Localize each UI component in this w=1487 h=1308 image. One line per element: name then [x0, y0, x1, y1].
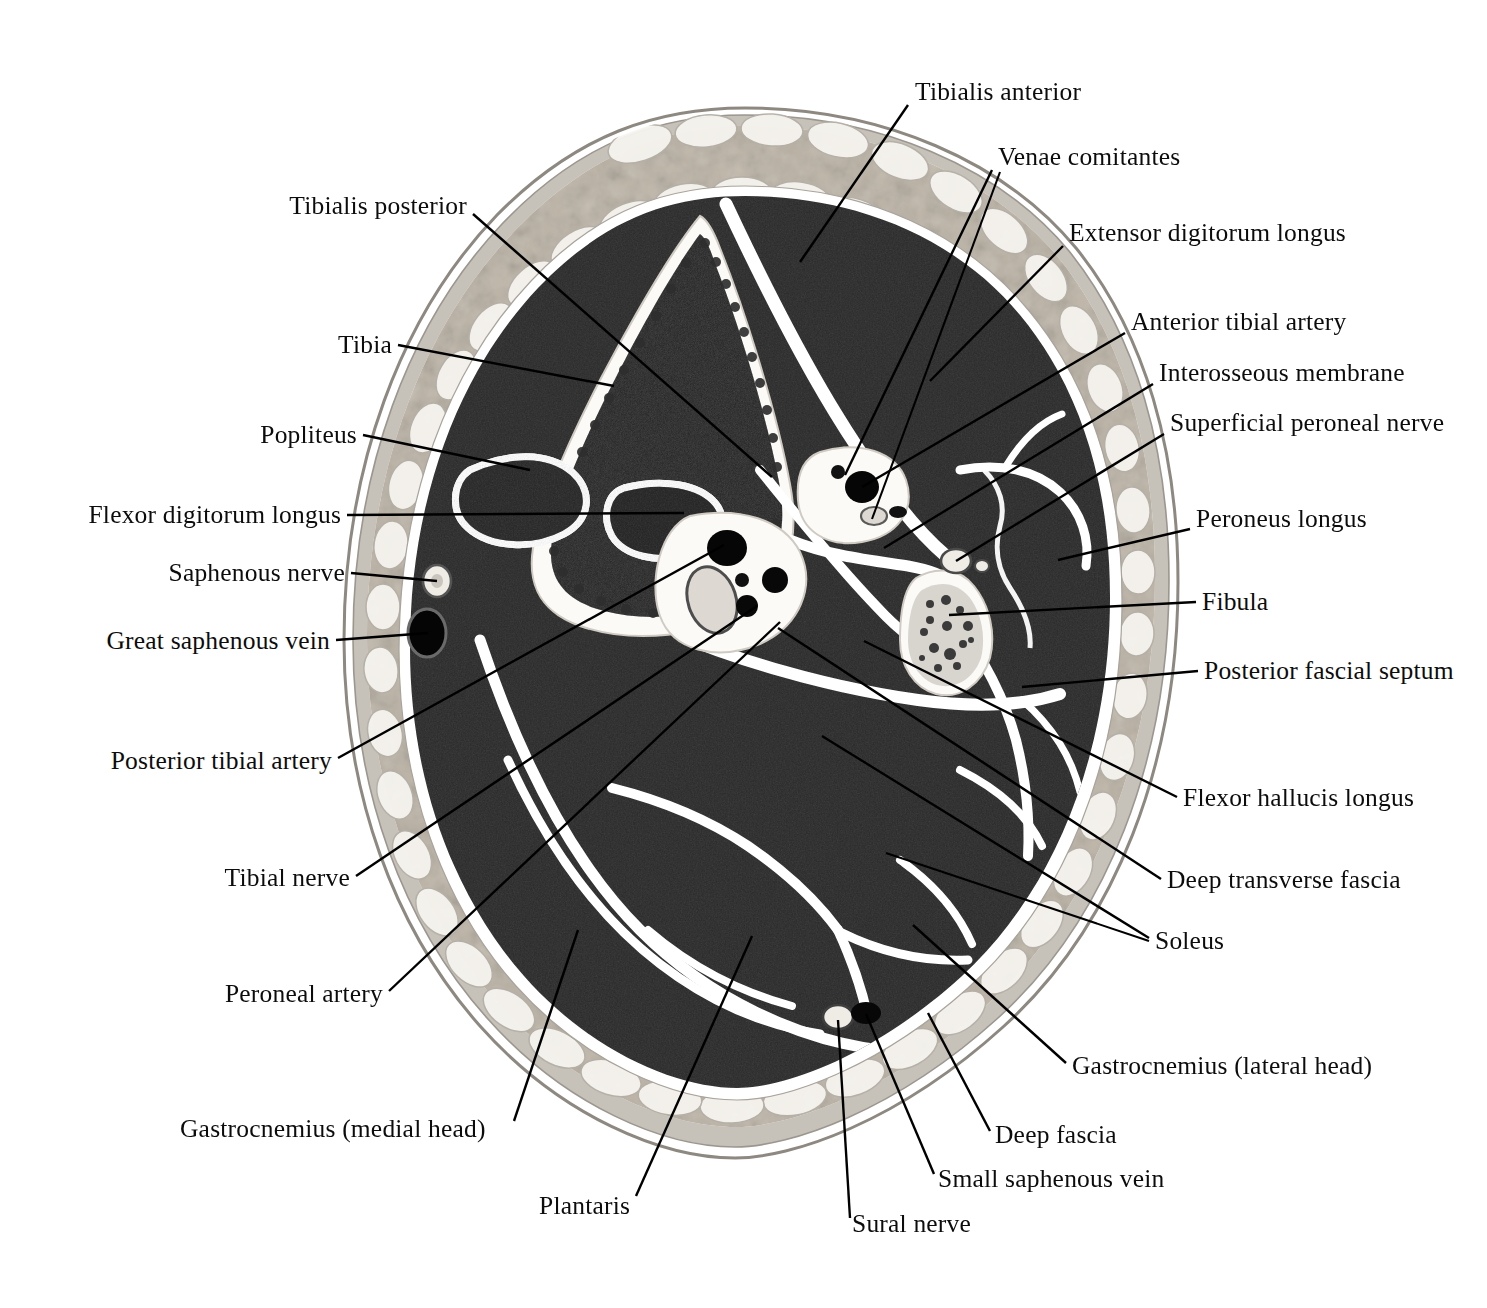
popliteus-muscle: [455, 457, 586, 545]
label-superficial-peroneal-nerve: Superficial peroneal nerve: [1170, 410, 1444, 436]
label-extensor-digitorum-longus: Extensor digitorum longus: [1069, 220, 1346, 246]
label-gastrocnemius-lateral: Gastrocnemius (lateral head): [1072, 1053, 1372, 1079]
anterior-tibial-vena-1: [831, 465, 845, 479]
label-sural-nerve: Sural nerve: [852, 1211, 971, 1237]
small-saphenous-vein-lumen: [851, 1002, 881, 1024]
label-deep-transverse-fascia: Deep transverse fascia: [1167, 867, 1401, 893]
posterior-tibial-artery-lumen: [707, 530, 747, 566]
label-great-saphenous-vein: Great saphenous vein: [106, 628, 330, 654]
label-posterior-fascial-septum: Posterior fascial septum: [1204, 658, 1454, 684]
label-fibula: Fibula: [1202, 589, 1268, 615]
label-posterior-tibial-artery: Posterior tibial artery: [111, 748, 332, 774]
label-deep-fascia: Deep fascia: [995, 1122, 1117, 1148]
label-peroneus-longus: Peroneus longus: [1196, 506, 1367, 532]
label-peroneal-artery: Peroneal artery: [225, 981, 383, 1007]
label-soleus: Soleus: [1155, 928, 1224, 954]
label-tibialis-posterior: Tibialis posterior: [289, 193, 467, 219]
vena-comitans-1: [762, 567, 788, 593]
label-plantaris: Plantaris: [539, 1193, 630, 1219]
label-small-saphenous-vein: Small saphenous vein: [938, 1166, 1164, 1192]
label-tibialis-anterior: Tibialis anterior: [915, 79, 1081, 105]
label-flexor-digitorum-longus: Flexor digitorum longus: [88, 502, 341, 528]
label-venae-comitantes: Venae comitantes: [998, 144, 1180, 170]
label-gastrocnemius-medial: Gastrocnemius (medial head): [180, 1116, 486, 1142]
label-flexor-hallucis-longus: Flexor hallucis longus: [1183, 785, 1414, 811]
anatomy-figure: Tibialis anteriorVenae comitantesExtenso…: [0, 0, 1487, 1308]
label-saphenous-nerve: Saphenous nerve: [169, 560, 346, 586]
vena-comitans-2: [735, 573, 749, 587]
label-tibia: Tibia: [338, 332, 392, 358]
label-anterior-tibial-artery: Anterior tibial artery: [1131, 309, 1346, 335]
label-interosseous-membrane: Interosseous membrane: [1159, 360, 1405, 386]
label-popliteus: Popliteus: [260, 422, 357, 448]
anterior-tibial-vena-2: [889, 506, 907, 518]
label-tibial-nerve: Tibial nerve: [225, 865, 350, 891]
